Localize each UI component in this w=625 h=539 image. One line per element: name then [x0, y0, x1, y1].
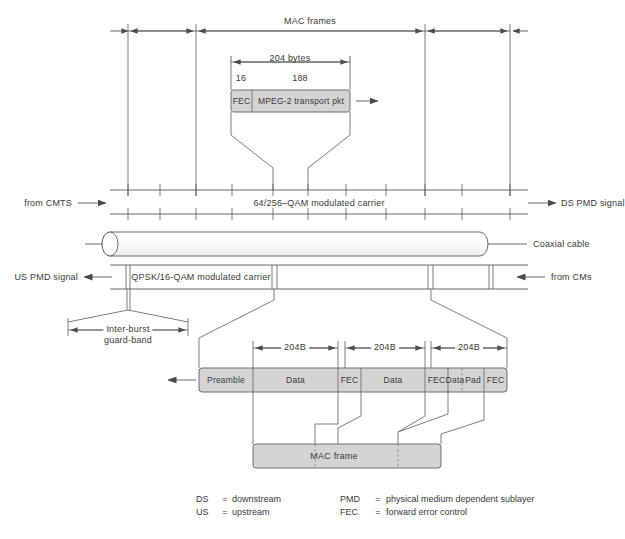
legend-key-pmd: PMD	[340, 494, 370, 504]
burst-segment-preamble: Preamble	[207, 375, 245, 386]
burst-dim-label-2: 204B	[371, 342, 399, 353]
diagram-canvas: MAC frames 204 bytes 16 188 FEC MPEG-2 t…	[0, 0, 625, 539]
packet-dimension-guides	[231, 62, 350, 90]
legend-key-us: US	[196, 507, 218, 517]
burst-segment-data-1: Data	[286, 375, 305, 386]
guard-band-label-line2: guard-band	[104, 335, 152, 346]
legend-value-us: upstream	[232, 507, 270, 517]
ds-carrier-label: 64/256–QAM modulated carrier	[253, 198, 384, 209]
burst-segment-fec-3: FEC	[487, 375, 505, 386]
legend-row-pmd: PMD = physical medium dependent sublayer	[340, 494, 535, 507]
legend-row-us: US = upstream	[196, 507, 281, 520]
burst-expansion-connectors	[199, 289, 507, 368]
fec-size-label: 16	[236, 73, 246, 84]
guard-band-label-line1: Inter-burst	[103, 324, 152, 335]
burst-dim-label-1: 204B	[281, 342, 309, 353]
us-carrier-label: QPSK/16-QAM modulated carrier	[131, 272, 270, 283]
us-pmd-signal-label: US PMD signal	[14, 272, 78, 283]
from-cms-label: from CMs	[551, 272, 592, 283]
mpeg-payload-label: MPEG-2 transport pkt	[258, 96, 344, 107]
legend-row-ds: DS = downstream	[196, 494, 281, 507]
ds-pmd-signal-label: DS PMD signal	[561, 198, 625, 209]
legend-key-ds: DS	[196, 494, 218, 504]
mac-frames-label: MAC frames	[284, 16, 336, 27]
legend-value-fec: forward error control	[386, 507, 467, 517]
burst-segment-fec-1: FEC	[341, 375, 359, 386]
legend-row-fec: FEC = forward error control	[340, 507, 535, 520]
packet-size-label: 204 bytes	[270, 53, 311, 64]
legend-value-ds: downstream	[232, 494, 281, 504]
coaxial-cable-shape	[85, 232, 527, 256]
legend-eq-fec: =	[370, 507, 386, 517]
from-cmts-label: from CMTS	[24, 198, 72, 209]
payload-size-label: 188	[292, 73, 308, 84]
legend-left: DS = downstream US = upstream	[196, 494, 281, 520]
legend-eq-pmd: =	[370, 494, 386, 504]
packet-to-carrier-funnel	[231, 112, 350, 190]
legend-right: PMD = physical medium dependent sublayer…	[340, 494, 535, 520]
burst-segment-fec-2: FEC	[428, 375, 446, 386]
burst-segment-data-2: Data	[384, 375, 403, 386]
mpeg-fec-label: FEC	[233, 96, 251, 107]
legend-eq-ds: =	[218, 494, 232, 504]
mac-frame-label: MAC frame	[310, 451, 357, 462]
burst-segment-data-3: Data	[446, 375, 465, 386]
burst-segment-pad: Pad	[465, 375, 481, 386]
burst-to-mac-frame-connectors	[253, 392, 484, 444]
burst-dim-label-3: 204B	[455, 342, 483, 353]
legend-value-pmd: physical medium dependent sublayer	[386, 494, 535, 504]
coaxial-cable-label: Coaxial cable	[533, 239, 590, 250]
legend-eq-us: =	[218, 507, 232, 517]
legend-key-fec: FEC	[340, 507, 370, 517]
